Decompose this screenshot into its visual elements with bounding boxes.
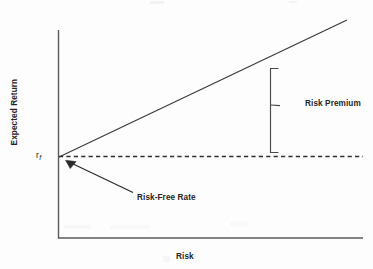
chart-figure: Expected Return Risk rf Risk Premium Ris…	[0, 0, 373, 269]
risk-free-rate-label: Risk-Free Rate	[137, 194, 196, 202]
x-axis-label: Risk	[176, 253, 194, 261]
risk-free-rate-intercept-label: rf	[36, 151, 41, 161]
rf-subscript: f	[39, 154, 41, 161]
risk-premium-label: Risk Premium	[305, 100, 361, 108]
chart-canvas	[0, 0, 373, 269]
y-axis-label: Expected Return	[11, 70, 19, 154]
security-market-line	[59, 20, 347, 157]
scan-artifacts	[64, 1, 297, 262]
risk-free-rate-arrow	[66, 160, 134, 192]
risk-premium-bracket	[271, 69, 281, 153]
